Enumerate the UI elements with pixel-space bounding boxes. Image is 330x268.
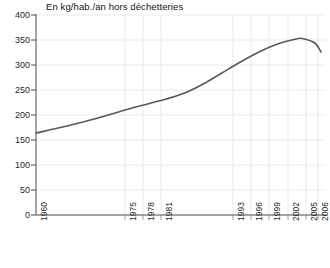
- x-tick-label: 2006: [321, 202, 330, 221]
- x-tick-label: 1981: [165, 202, 174, 221]
- x-tick-label: 2002: [292, 202, 301, 221]
- x-tick-label: 1978: [147, 202, 156, 221]
- x-tick-label: 1960: [40, 202, 49, 221]
- x-tick-label: 1975: [129, 202, 138, 221]
- y-axis-line: [31, 14, 36, 215]
- x-tick-label: 1993: [237, 202, 246, 221]
- data-series-line: [36, 38, 321, 133]
- x-tick-label: 1999: [273, 202, 282, 221]
- x-tick-label: 2005: [310, 202, 319, 221]
- x-tick-label: 1996: [255, 202, 264, 221]
- x-axis-line: [36, 215, 326, 220]
- horizontal-gridlines: [36, 15, 326, 190]
